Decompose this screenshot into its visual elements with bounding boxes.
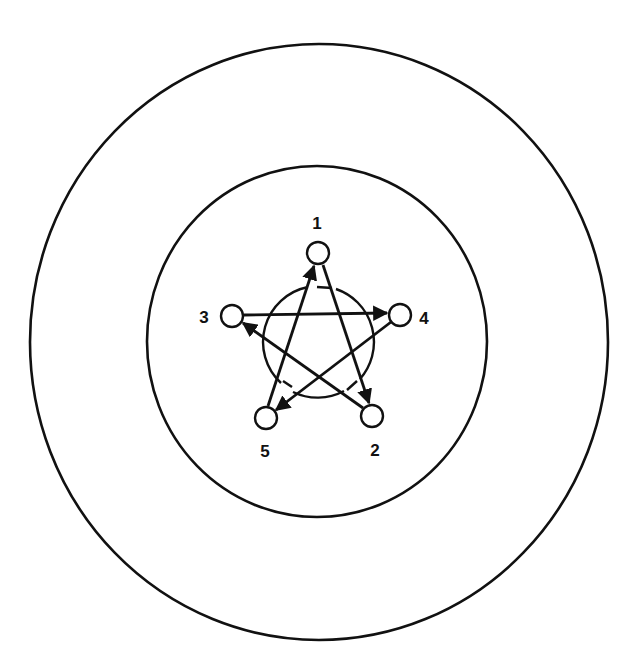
outer-ring xyxy=(30,44,608,640)
node-label-4: 4 xyxy=(419,309,429,328)
nodes xyxy=(221,242,411,429)
dash-mark-lower-left xyxy=(283,381,292,387)
node-4 xyxy=(389,304,411,326)
node-label-1: 1 xyxy=(312,214,321,233)
dash-mark-lower-right xyxy=(347,381,357,390)
node-2 xyxy=(361,405,383,427)
node-3 xyxy=(221,305,243,327)
edge-4-to-5 xyxy=(276,322,391,410)
edge-3-to-4 xyxy=(244,313,387,315)
node-label-5: 5 xyxy=(260,442,269,461)
node-label-2: 2 xyxy=(370,441,379,460)
node-1 xyxy=(307,242,329,264)
edge-1-to-2 xyxy=(323,265,369,403)
edges xyxy=(243,265,391,410)
inner-ring xyxy=(263,287,374,398)
inner-ring-dash-marks xyxy=(283,287,357,390)
node-5 xyxy=(255,407,277,429)
pentagram-network-diagram: 1 2 3 4 5 xyxy=(0,0,632,669)
node-label-3: 3 xyxy=(199,308,208,327)
